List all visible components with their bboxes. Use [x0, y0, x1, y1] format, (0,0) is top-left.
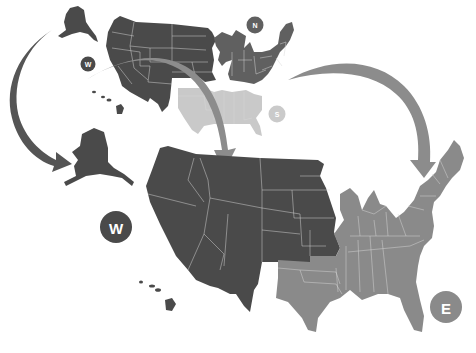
badge-top-west: W [81, 57, 96, 72]
badge-bottom-east-label: E [441, 300, 451, 317]
top-alaska [58, 6, 98, 42]
bottom-alaska [64, 128, 134, 186]
badge-top-south: S [269, 106, 286, 123]
badge-bottom-west: W [100, 211, 132, 243]
badge-top-south-label: S [275, 111, 280, 118]
bottom-hawaii [139, 281, 176, 312]
top-hawaii [92, 91, 124, 114]
badge-top-north-label: N [252, 22, 257, 29]
badge-bottom-west-label: W [109, 220, 124, 237]
badge-bottom-east: E [430, 291, 462, 323]
region-map-diagram: W N S W E [0, 0, 476, 353]
arrow-west-to-alaska [10, 30, 72, 172]
badge-top-west-label: W [85, 61, 92, 68]
badge-top-north: N [247, 17, 264, 34]
